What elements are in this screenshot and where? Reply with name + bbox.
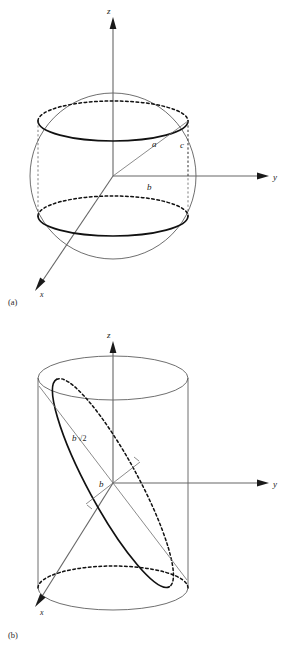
- y-axis-arrow-b: [257, 480, 269, 487]
- x-axis-arrow-b: [35, 594, 46, 607]
- y-axis-arrow-a: [257, 173, 269, 180]
- lower-circle-front-arc: [38, 216, 188, 236]
- right-angle-tick-upper: [134, 457, 139, 461]
- label-b: b: [147, 182, 152, 192]
- sphere-diagram-svg: z y x a c b: [0, 0, 296, 312]
- label-a: a: [152, 139, 157, 149]
- z-axis-arrow-b: [110, 341, 117, 353]
- right-angle-tick-lower: [87, 505, 92, 509]
- panel-tag-a: (a): [8, 297, 18, 307]
- z-axis-arrow-a: [110, 17, 117, 29]
- inclined-ellipse-back-arc: [57, 367, 192, 586]
- cylinder-diagram-svg: z y x: [0, 310, 296, 646]
- semi-major-axis-line-opposite: [113, 483, 187, 580]
- radius-a-line: [113, 121, 188, 176]
- figure-root: z y x a c b: [0, 0, 296, 646]
- panel-tag-b: (b): [8, 630, 18, 640]
- y-axis-label-b: y: [272, 479, 277, 489]
- panel-sphere: z y x a c b: [0, 0, 296, 312]
- z-axis-label-a: z: [106, 6, 111, 16]
- z-axis-label-b: z: [106, 330, 111, 340]
- semi-major-axis-label: b: [72, 433, 77, 443]
- x-axis-line-b: [41, 483, 113, 598]
- label-c: c: [180, 140, 184, 150]
- y-axis-label-a: y: [272, 172, 277, 182]
- semi-major-axis-radical: √2: [78, 434, 86, 443]
- semi-minor-axis-label: b: [99, 479, 104, 489]
- cylinder-bottom-front-arc: [38, 588, 188, 610]
- semi-major-label-group: b √2: [72, 433, 86, 443]
- cylinder-bottom-back-arc: [38, 566, 188, 588]
- x-axis-label-a: x: [39, 290, 44, 299]
- x-axis-line-a: [41, 176, 113, 283]
- lower-circle-back-arc: [38, 196, 188, 216]
- panel-cylinder: z y x: [0, 310, 296, 646]
- x-axis-label-b: x: [39, 608, 44, 617]
